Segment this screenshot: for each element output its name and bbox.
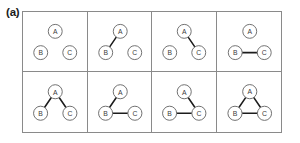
node-label-A: A [53, 89, 58, 96]
node-label-B: B [167, 110, 172, 117]
node-label-B: B [38, 49, 43, 56]
node-label-A: A [247, 28, 252, 35]
node-label-C: C [67, 49, 72, 56]
graph-drawing: ABC [23, 72, 87, 132]
graph-node-B: B [98, 46, 112, 60]
node-label-B: B [232, 49, 237, 56]
graph-node-B: B [98, 106, 112, 120]
node-label-A: A [182, 89, 187, 96]
graph-grid: ABCABCABCABCABCABCABCABC [22, 11, 282, 133]
graph-node-A: A [113, 24, 127, 38]
node-label-B: B [232, 110, 237, 117]
graph-panel-5: ABC [23, 72, 88, 132]
graph-node-A: A [48, 24, 62, 38]
graph-node-A: A [48, 85, 62, 99]
node-label-A: A [182, 28, 187, 35]
node-label-A: A [53, 28, 58, 35]
node-label-B: B [103, 110, 108, 117]
graph-drawing: ABC [217, 12, 282, 71]
node-label-C: C [196, 110, 201, 117]
node-label-C: C [132, 49, 137, 56]
node-label-C: C [67, 110, 72, 117]
graph-node-C: C [192, 46, 206, 60]
graph-panel-6: ABC [88, 72, 153, 132]
node-label-C: C [262, 110, 267, 117]
graph-panel-2: ABC [88, 12, 153, 72]
graph-node-B: B [163, 46, 177, 60]
graph-node-C: C [127, 106, 141, 120]
graph-node-A: A [177, 24, 191, 38]
graph-node-C: C [257, 46, 271, 60]
graph-drawing: ABC [217, 72, 282, 132]
node-label-C: C [132, 110, 137, 117]
graph-node-B: B [163, 106, 177, 120]
graph-node-C: C [257, 106, 271, 120]
node-label-B: B [38, 110, 43, 117]
graph-node-B: B [228, 46, 242, 60]
graph-node-C: C [192, 106, 206, 120]
node-label-A: A [117, 89, 122, 96]
node-label-C: C [261, 49, 266, 56]
graph-panel-7: ABC [152, 72, 217, 132]
graph-node-A: A [177, 85, 191, 99]
node-label-C: C [196, 49, 201, 56]
node-label-B: B [167, 49, 172, 56]
graph-drawing: ABC [152, 72, 216, 132]
graph-panel-8: ABC [217, 72, 282, 132]
graph-node-B: B [227, 106, 241, 120]
graph-drawing: ABC [152, 12, 216, 71]
graph-drawing: ABC [88, 12, 152, 71]
node-label-B: B [103, 49, 108, 56]
graph-panel-4: ABC [217, 12, 282, 72]
graph-node-A: A [242, 85, 256, 99]
panel-label: (a) [6, 7, 19, 19]
graph-panel-3: ABC [152, 12, 217, 72]
figure-root: (a) ABCABCABCABCABCABCABCABC [0, 0, 300, 143]
graph-node-B: B [34, 46, 48, 60]
graph-panel-1: ABC [23, 12, 88, 72]
graph-drawing: ABC [88, 72, 152, 132]
graph-node-A: A [113, 85, 127, 99]
graph-node-C: C [63, 46, 77, 60]
graph-drawing: ABC [23, 12, 87, 71]
graph-node-B: B [34, 106, 48, 120]
graph-node-A: A [242, 24, 256, 38]
node-label-A: A [117, 28, 122, 35]
node-label-A: A [247, 88, 252, 95]
graph-node-C: C [127, 46, 141, 60]
graph-node-C: C [63, 106, 77, 120]
